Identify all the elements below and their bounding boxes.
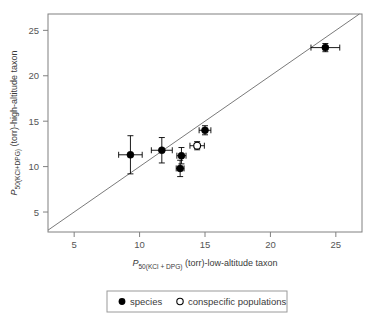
y-tick-label: 25: [28, 25, 39, 36]
x-tick-label: 10: [134, 239, 145, 250]
x-tick-label: 25: [331, 239, 342, 250]
data-point-filled: [322, 44, 329, 51]
scatter-plot-figure: 510152025510152025P50(KCl + DPG) (torr)-…: [0, 0, 389, 316]
legend-marker-filled-circle: [119, 298, 126, 305]
x-axis-ticks: 510152025: [72, 232, 342, 250]
data-point-filled: [178, 152, 185, 159]
x-tick-label: 5: [72, 239, 77, 250]
y-tick-label: 5: [34, 207, 39, 218]
identity-reference-line: [48, 14, 359, 230]
x-tick-label: 15: [200, 239, 211, 250]
data-point-filled: [158, 147, 165, 154]
chart-canvas: 510152025510152025P50(KCl + DPG) (torr)-…: [0, 0, 389, 316]
legend: speciesconspecific populations: [107, 291, 287, 312]
data-point-filled: [127, 151, 134, 158]
x-tick-label: 20: [265, 239, 276, 250]
plot-frame: [48, 14, 362, 232]
x-axis-title-rest: (torr)-low-altitude taxon: [183, 258, 278, 268]
y-tick-label: 20: [28, 70, 39, 81]
x-axis-title-subscript: 50(KCl + DPG): [138, 263, 182, 271]
legend-label-species: species: [130, 296, 162, 307]
y-axis-title: P50(KCl+DPG) (torr)-high-altitude taxon: [9, 50, 22, 195]
y-axis-title-rest: (torr)-high-altitude taxon: [9, 50, 19, 149]
y-axis-ticks: 510152025: [28, 25, 48, 218]
legend-label-conspecific-populations: conspecific populations: [188, 296, 286, 307]
x-axis-title: P50(KCl + DPG) (torr)-low-altitude taxon: [132, 258, 277, 271]
series-species: [119, 44, 340, 177]
y-tick-label: 10: [28, 161, 39, 172]
data-point-open: [194, 142, 201, 149]
data-point-filled: [177, 165, 184, 172]
y-axis-title-subscript: 50(KCl+DPG): [14, 149, 22, 190]
legend-marker-open-circle: [177, 298, 183, 304]
series-conspecific-populations: [190, 142, 204, 150]
data-point-filled: [202, 127, 209, 134]
y-tick-label: 15: [28, 116, 39, 127]
